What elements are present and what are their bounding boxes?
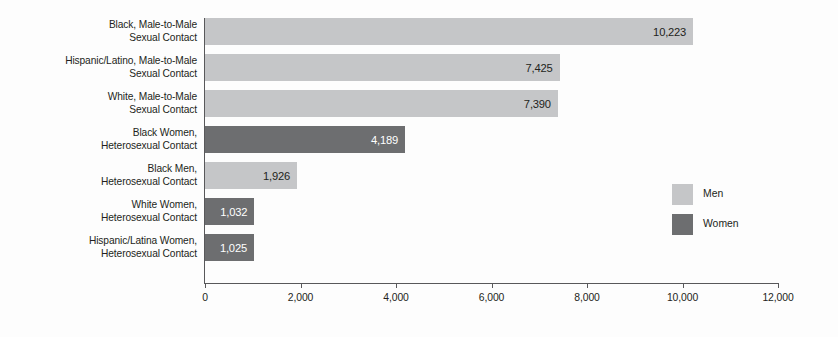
category-label-line: Heterosexual Contact — [0, 212, 197, 224]
bar: 1,926 — [205, 162, 297, 189]
legend-label: Men — [703, 188, 723, 199]
legend-label: Women — [703, 218, 739, 229]
x-axis-tick-label: 10,000 — [667, 292, 698, 303]
bar: 10,223 — [205, 18, 693, 45]
bar-chart: Black, Male-to-MaleSexual ContactHispani… — [0, 0, 838, 337]
category-label-line: Heterosexual Contact — [0, 248, 197, 260]
x-axis-tick — [301, 283, 302, 288]
category-label-line: White Women, — [0, 199, 197, 211]
category-label: Black Women,Heterosexual Contact — [0, 127, 197, 152]
category-label-line: Sexual Contact — [0, 32, 197, 44]
category-label-line: Heterosexual Contact — [0, 176, 197, 188]
category-label: Black, Male-to-MaleSexual Contact — [0, 19, 197, 44]
x-axis-tick — [778, 283, 779, 288]
category-label: White Women,Heterosexual Contact — [0, 199, 197, 224]
category-label-line: Black Men, — [0, 163, 197, 175]
category-label: Black Men,Heterosexual Contact — [0, 163, 197, 188]
x-axis-tick-label: 6,000 — [479, 292, 505, 303]
x-axis-tick-label: 8,000 — [574, 292, 600, 303]
x-axis-tick — [205, 283, 206, 288]
category-label-line: Hispanic/Latina Women, — [0, 235, 197, 247]
bar-value-label: 7,390 — [524, 98, 558, 110]
bar: 1,032 — [205, 198, 254, 225]
y-axis-line — [204, 18, 205, 284]
bar: 7,390 — [205, 90, 558, 117]
x-axis-tick-label: 2,000 — [288, 292, 314, 303]
bar-value-label: 1,025 — [220, 242, 254, 254]
bar-value-label: 1,032 — [220, 206, 254, 218]
bar: 1,025 — [205, 234, 254, 261]
bar-value-label: 10,223 — [653, 26, 693, 38]
bar: 7,425 — [205, 54, 560, 81]
legend-swatch — [672, 184, 693, 205]
x-axis-tick — [396, 283, 397, 288]
x-axis-tick-label: 12,000 — [762, 292, 793, 303]
x-axis-tick-label: 0 — [202, 292, 208, 303]
category-label-line: White, Male-to-Male — [0, 91, 197, 103]
category-label-line: Black, Male-to-Male — [0, 19, 197, 31]
plot-area: 10,2237,4257,3904,1891,9261,0321,025 — [205, 18, 778, 282]
x-axis-tick — [587, 283, 588, 288]
category-label: Hispanic/Latina Women,Heterosexual Conta… — [0, 235, 197, 260]
x-axis-tick-label: 4,000 — [383, 292, 409, 303]
bar-value-label: 1,926 — [263, 170, 297, 182]
bar-value-label: 7,425 — [526, 62, 560, 74]
x-axis-tick — [683, 283, 684, 288]
category-label-line: Sexual Contact — [0, 104, 197, 116]
bar: 4,189 — [205, 126, 405, 153]
category-label-line: Hispanic/Latino, Male-to-Male — [0, 55, 197, 67]
x-axis-tick — [492, 283, 493, 288]
category-label: White, Male-to-MaleSexual Contact — [0, 91, 197, 116]
legend-swatch — [672, 214, 693, 235]
category-label-line: Sexual Contact — [0, 68, 197, 80]
category-label-line: Heterosexual Contact — [0, 140, 197, 152]
category-label-line: Black Women, — [0, 127, 197, 139]
bar-value-label: 4,189 — [371, 134, 405, 146]
category-label: Hispanic/Latino, Male-to-MaleSexual Cont… — [0, 55, 197, 80]
